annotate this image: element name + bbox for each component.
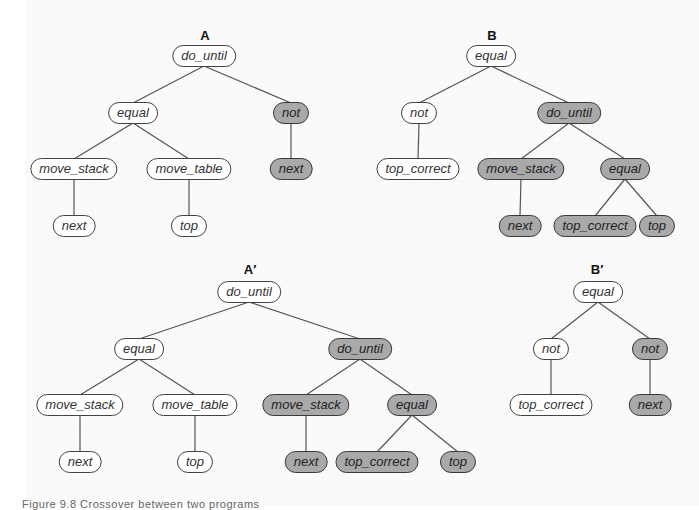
tree-node-top-correct-shaded: top_correct bbox=[335, 451, 418, 473]
tree-edge bbox=[74, 123, 133, 159]
tree-node-move-stack: move_stack bbox=[36, 394, 123, 416]
tree-edge bbox=[625, 179, 657, 216]
tree-edge bbox=[80, 359, 139, 395]
tree-node-next: next bbox=[53, 215, 96, 237]
tree-edge bbox=[595, 179, 625, 216]
tree-node-equal: equal bbox=[573, 281, 623, 303]
tree-node-top: top bbox=[177, 451, 213, 473]
tree-node-top: top bbox=[171, 215, 207, 237]
tree-edge bbox=[133, 66, 204, 103]
tree-edge bbox=[521, 123, 569, 159]
tree-node-top-shaded: top bbox=[440, 451, 476, 473]
tree-edge bbox=[133, 123, 189, 159]
tree-node-move-stack: move_stack bbox=[30, 158, 117, 180]
tree-node-equal: equal bbox=[108, 102, 158, 124]
tree-edge bbox=[360, 359, 412, 395]
tree-edge bbox=[491, 66, 569, 103]
tree-edge bbox=[139, 359, 195, 395]
tree-node-next-shaded: next bbox=[285, 451, 328, 473]
tree-node-not: not bbox=[401, 102, 437, 124]
tree-node-next-shaded: next bbox=[499, 215, 542, 237]
tree-node-top-shaded: top bbox=[639, 215, 675, 237]
tree-edge bbox=[249, 302, 360, 339]
tree-edge bbox=[412, 415, 458, 452]
tree-edge bbox=[139, 302, 249, 339]
tree-label: B′ bbox=[591, 262, 604, 277]
tree-node-move-stack-shaded: move_stack bbox=[262, 394, 349, 416]
tree-node-equal: equal bbox=[114, 338, 164, 360]
tree-node-do-until: do_until bbox=[217, 281, 281, 303]
tree-edge bbox=[598, 302, 650, 339]
tree-node-next-shaded: next bbox=[270, 158, 313, 180]
tree-node-top-correct: top_correct bbox=[509, 394, 592, 416]
tree-node-next: next bbox=[59, 451, 102, 473]
tree-label: A′ bbox=[244, 262, 257, 277]
tree-node-not: not bbox=[533, 338, 569, 360]
tree-node-equal: equal bbox=[466, 45, 516, 67]
tree-node-do-until: do_until bbox=[172, 45, 236, 67]
tree-node-do-until-shaded: do_until bbox=[537, 102, 601, 124]
tree-node-top-correct: top_correct bbox=[376, 158, 459, 180]
tree-edge bbox=[569, 123, 625, 159]
tree-node-next-shaded: next bbox=[629, 394, 672, 416]
tree-node-move-table: move_table bbox=[146, 158, 231, 180]
tree-node-not-shaded: not bbox=[273, 102, 309, 124]
tree-edge bbox=[551, 302, 598, 339]
tree-node-top-correct-shaded: top_correct bbox=[553, 215, 636, 237]
tree-node-equal-shaded: equal bbox=[387, 394, 437, 416]
tree-edge bbox=[418, 123, 419, 159]
tree-edge bbox=[419, 66, 491, 103]
tree-node-do-until-shaded: do_until bbox=[328, 338, 392, 360]
tree-edge bbox=[204, 66, 291, 103]
tree-label: B bbox=[487, 28, 496, 43]
tree-edge bbox=[306, 359, 360, 395]
figure-caption: Figure 9.8 Crossover between two program… bbox=[22, 498, 260, 510]
tree-node-not-shaded: not bbox=[632, 338, 668, 360]
tree-edge bbox=[520, 179, 521, 216]
tree-label: A bbox=[200, 28, 209, 43]
tree-node-move-stack-shaded: move_stack bbox=[477, 158, 564, 180]
tree-edge bbox=[377, 415, 412, 452]
tree-node-equal-shaded: equal bbox=[600, 158, 650, 180]
tree-node-move-table: move_table bbox=[152, 394, 237, 416]
